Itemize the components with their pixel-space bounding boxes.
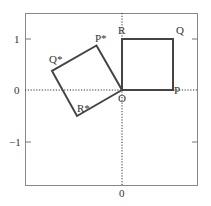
square-OPQR [122,39,173,90]
label-R: R [118,24,126,36]
label-P: P [174,84,180,96]
label-Qstar: Q* [49,53,62,65]
ytick-label-0: 0 [14,84,20,96]
label-Rstar: R* [77,102,90,114]
label-Pstar: P* [95,32,107,44]
diagram-canvas: 1 0 −1 0 O P Q R P* Q* R* [0,0,211,206]
xtick-label-0: 0 [119,187,125,199]
label-Q: Q [176,24,184,36]
ytick-label-m1: −1 [9,136,21,148]
label-O: O [118,92,126,104]
ytick-label-1: 1 [14,33,20,45]
